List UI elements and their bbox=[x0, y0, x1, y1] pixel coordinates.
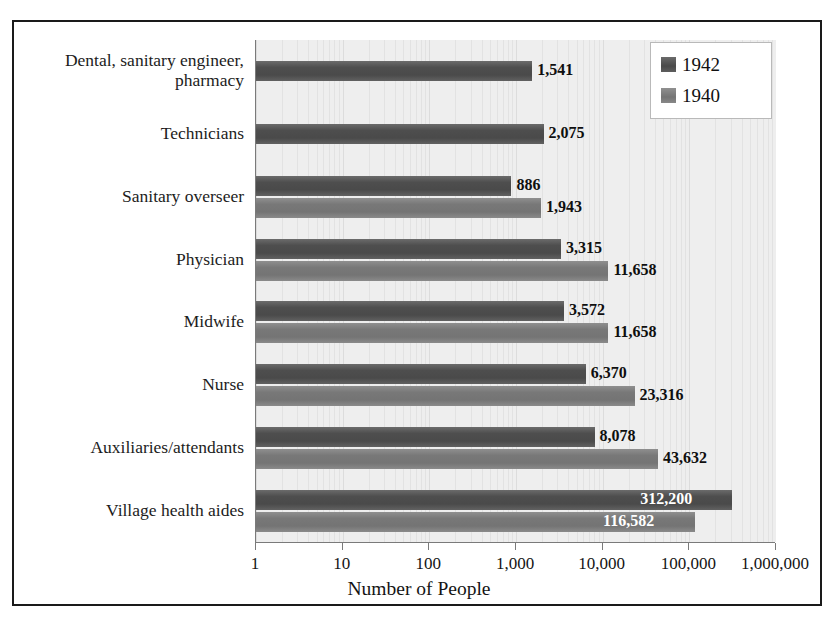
bar-value-label: 6,370 bbox=[591, 364, 627, 382]
category-label: Auxiliaries/attendants bbox=[16, 438, 244, 458]
bar-value-label: 3,315 bbox=[566, 239, 602, 257]
chart-figure-frame: Dental, sanitary engineer, pharmacyTechn… bbox=[12, 20, 822, 606]
legend-swatch-icon-1940 bbox=[661, 88, 676, 103]
category-axis: Dental, sanitary engineer, pharmacyTechn… bbox=[14, 40, 250, 542]
axis-tick-label: 100 bbox=[416, 554, 442, 574]
bar-1942-4[interactable] bbox=[256, 301, 564, 321]
bar-1942-2[interactable] bbox=[256, 176, 511, 196]
bar-value-label: 1,943 bbox=[546, 198, 582, 216]
axis-tick bbox=[602, 543, 603, 550]
bar-1942-3[interactable] bbox=[256, 239, 561, 259]
axis-tick bbox=[775, 543, 776, 550]
bar-value-label: 11,658 bbox=[613, 323, 656, 341]
category-label: Midwife bbox=[16, 312, 244, 332]
bar-value-label: 312,200 bbox=[640, 490, 692, 508]
gridline bbox=[772, 40, 773, 542]
bar-value-label: 43,632 bbox=[663, 449, 707, 467]
axis-tick-label: 1 bbox=[251, 554, 260, 574]
bar-1940-4[interactable] bbox=[256, 323, 608, 343]
legend-label-1942: 1942 bbox=[682, 55, 720, 74]
bar-1940-5[interactable] bbox=[256, 386, 635, 406]
legend-item-1942[interactable]: 1942 bbox=[661, 49, 763, 80]
bar-value-label: 11,658 bbox=[613, 261, 656, 279]
bar-value-label: 3,572 bbox=[569, 301, 605, 319]
value-axis: 1101001,00010,000100,0001,000,000 bbox=[255, 542, 775, 553]
bar-value-label: 2,075 bbox=[549, 124, 585, 142]
category-label: Village health aides bbox=[16, 501, 244, 521]
bar-value-label: 1,541 bbox=[537, 61, 573, 79]
bar-value-label: 886 bbox=[516, 176, 540, 194]
bar-value-label: 8,078 bbox=[600, 427, 636, 445]
axis-tick bbox=[515, 543, 516, 550]
category-label: Dental, sanitary engineer, pharmacy bbox=[16, 51, 244, 90]
axis-tick-label: 1,000,000 bbox=[741, 554, 809, 574]
legend-item-1940[interactable]: 1940 bbox=[661, 80, 763, 111]
axis-tick-label: 10 bbox=[333, 554, 350, 574]
bar-1940-3[interactable] bbox=[256, 261, 608, 281]
bar-1942-6[interactable] bbox=[256, 427, 595, 447]
x-axis-title: Number of People bbox=[14, 578, 824, 600]
legend-label-1940: 1940 bbox=[682, 86, 720, 105]
category-label: Technicians bbox=[16, 124, 244, 144]
bar-value-label: 116,582 bbox=[603, 512, 654, 530]
axis-tick-label: 100,000 bbox=[661, 554, 716, 574]
bar-1940-2[interactable] bbox=[256, 198, 541, 218]
bar-1940-6[interactable] bbox=[256, 449, 658, 469]
category-label: Sanitary overseer bbox=[16, 187, 244, 207]
axis-tick bbox=[342, 543, 343, 550]
axis-tick bbox=[428, 543, 429, 550]
bar-1942-5[interactable] bbox=[256, 364, 586, 384]
category-label: Physician bbox=[16, 250, 244, 270]
legend-swatch-icon-1942 bbox=[661, 57, 676, 72]
bar-1942-0[interactable] bbox=[256, 61, 532, 81]
category-label: Nurse bbox=[16, 375, 244, 395]
axis-tick-label: 1,000 bbox=[496, 554, 534, 574]
axis-tick bbox=[255, 543, 256, 550]
chart-legend: 1942 1940 bbox=[650, 42, 772, 119]
axis-tick-label: 10,000 bbox=[578, 554, 625, 574]
axis-tick bbox=[688, 543, 689, 550]
bar-value-label: 23,316 bbox=[640, 386, 684, 404]
bar-1942-1[interactable] bbox=[256, 124, 544, 144]
